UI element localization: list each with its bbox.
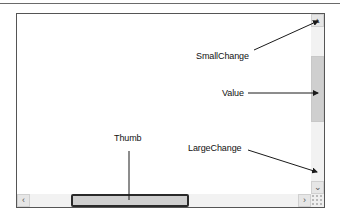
- chevron-up-icon: ▴: [315, 15, 320, 25]
- scrollable-panel: ▴ ⌄ ‹ ›: [16, 13, 325, 208]
- vertical-scrollbar[interactable]: ▴ ⌄: [311, 14, 324, 194]
- scroll-right-button[interactable]: ›: [298, 194, 311, 207]
- label-large-change: LargeChange: [188, 143, 241, 153]
- chevron-down-icon: ⌄: [314, 182, 322, 192]
- top-divider: [0, 3, 340, 4]
- scroll-up-button[interactable]: ▴: [311, 14, 324, 27]
- label-thumb: Thumb: [114, 133, 142, 143]
- horizontal-scroll-thumb[interactable]: [71, 194, 189, 207]
- label-value: Value: [222, 88, 244, 98]
- chevron-right-icon: ›: [303, 195, 306, 205]
- size-grip[interactable]: [311, 194, 324, 207]
- scroll-left-button[interactable]: ‹: [17, 194, 30, 207]
- scroll-down-button[interactable]: ⌄: [311, 181, 324, 194]
- horizontal-scrollbar[interactable]: ‹ ›: [17, 194, 311, 207]
- chevron-left-icon: ‹: [22, 195, 25, 205]
- vertical-scroll-thumb[interactable]: [311, 56, 324, 122]
- label-small-change: SmallChange: [196, 51, 249, 61]
